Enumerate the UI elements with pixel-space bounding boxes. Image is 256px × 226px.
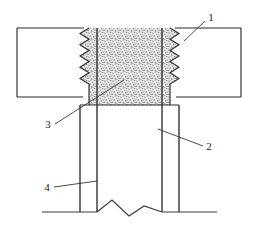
reference-label-4: 4 (44, 181, 50, 193)
reference-label-1: 1 (208, 11, 214, 23)
threaded-zone-fill (78, 27, 181, 106)
leader-line-2 (158, 129, 203, 146)
baseline-group (42, 200, 217, 216)
patent-figure: 1 2 3 4 (0, 0, 256, 226)
figure-canvas: 1 2 3 4 (0, 0, 256, 226)
reference-label-3: 3 (45, 118, 51, 130)
leader-line-4 (54, 181, 97, 187)
break-line-zigzag (97, 200, 162, 216)
leader-line-1 (184, 21, 205, 41)
reference-label-2: 2 (206, 140, 212, 152)
